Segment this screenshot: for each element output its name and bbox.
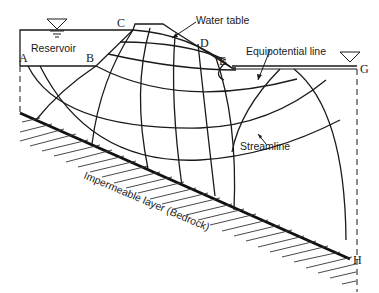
flow-net-diagram: Reservoir Water table Equipotential line… [0, 0, 379, 293]
impermeable-layer-label: Impermeable layer (Bedrock) [82, 169, 211, 233]
bedrock-hatching [20, 118, 356, 284]
point-g-label: G [360, 62, 369, 76]
water-level-triangle-right-icon [340, 52, 360, 62]
point-c-label: C [117, 16, 125, 30]
point-e-label: E [219, 54, 226, 68]
streamline-label: Streamline [240, 140, 290, 152]
leader-arrows [172, 22, 270, 144]
equipotential-lines [36, 28, 346, 240]
point-b-label: B [86, 51, 94, 65]
tailwater-line [232, 66, 357, 69]
reservoir-label: Reservoir [31, 42, 76, 54]
point-h-label: H [353, 253, 362, 267]
water-table-label: Water table [196, 14, 249, 26]
equipotential-line-label: Equipotential line [246, 45, 326, 57]
water-level-triangle-left-icon [47, 19, 67, 37]
point-d-label: D [200, 36, 209, 50]
point-a-label: A [19, 51, 28, 65]
impermeable-layer [20, 113, 356, 284]
